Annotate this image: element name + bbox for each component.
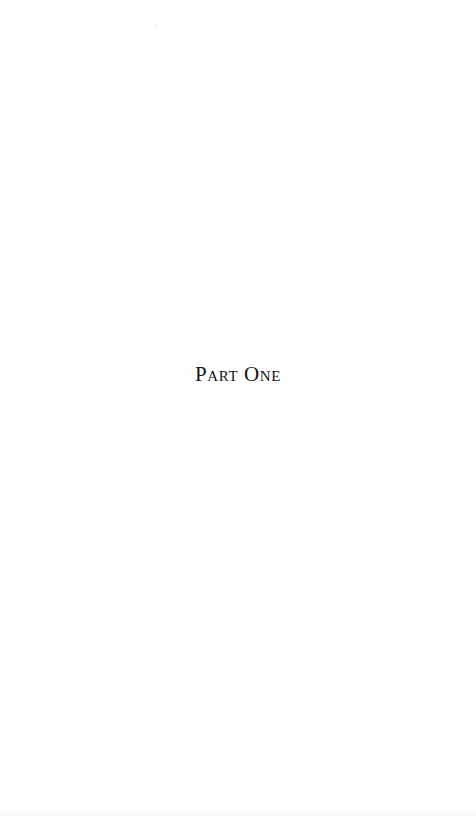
scan-speck <box>156 25 157 26</box>
part-title: Part One <box>0 362 476 386</box>
scan-edge-shadow <box>0 806 476 816</box>
book-page: Part One <box>0 0 476 816</box>
